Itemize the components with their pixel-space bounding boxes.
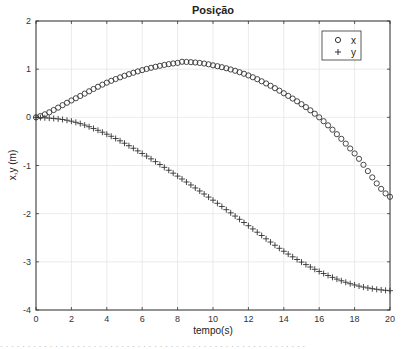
x-tick-label: 12 (243, 314, 253, 324)
x-tick-label: 10 (208, 314, 218, 324)
chart-title: Posição (192, 4, 234, 16)
y-tick-label: 2 (26, 16, 31, 26)
x-tick-label: 20 (385, 314, 395, 324)
x-tick-label: 0 (33, 314, 38, 324)
x-tick-label: 18 (350, 314, 360, 324)
x-axis-label: tempo(s) (193, 325, 232, 336)
legend-label-y: y (351, 47, 356, 58)
x-tick-label: 16 (314, 314, 324, 324)
clipped-caption: · · · · · · · · · · · · · · · · · · · · … (0, 341, 403, 349)
y-tick-label: -1 (23, 161, 31, 171)
grid-lines (36, 21, 390, 310)
x-tick-label: 8 (175, 314, 180, 324)
x-tick-label: 14 (279, 314, 289, 324)
y-axis-label: x,y (m) (7, 150, 18, 181)
y-tick-label: -3 (23, 257, 31, 267)
legend-label-x: x (351, 35, 356, 46)
x-tick-label: 2 (69, 314, 74, 324)
y-tick-label: 0 (26, 112, 31, 122)
x-tick-label: 6 (140, 314, 145, 324)
y-tick-label: -4 (23, 305, 31, 315)
x-tick-label: 4 (104, 314, 109, 324)
legend: x y (322, 31, 361, 60)
y-tick-label: 1 (26, 64, 31, 74)
chart-figure: Posição 02468101214161820-4-3-2-1012 tem… (0, 0, 403, 349)
y-tick-label: -2 (23, 209, 31, 219)
